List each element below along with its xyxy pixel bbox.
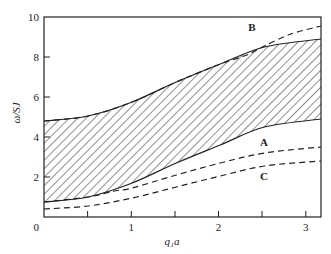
y-tick-10: 10 — [28, 11, 40, 23]
x-tick-2: 2 — [216, 221, 222, 233]
x-tick-1: 1 — [129, 221, 135, 233]
hatched-band — [44, 39, 321, 202]
x-axis — [88, 211, 306, 217]
y-tick-2: 2 — [34, 171, 40, 183]
y-axis-label: ω/SJ — [10, 101, 22, 123]
x-axis-label: q₁a — [165, 235, 180, 247]
curve-label-b: B — [248, 21, 256, 33]
y-tick-4: 4 — [34, 131, 40, 143]
curve-label-c: C — [260, 170, 268, 182]
curve-label-a: A — [260, 136, 268, 148]
origin-label: 0 — [34, 221, 40, 233]
x-tick-3: 3 — [303, 221, 309, 233]
y-tick-8: 8 — [34, 51, 40, 63]
chart: 10 8 6 4 2 0 1 2 3 q₁a ω/SJ B A C — [0, 0, 331, 254]
y-tick-6: 6 — [34, 91, 40, 103]
